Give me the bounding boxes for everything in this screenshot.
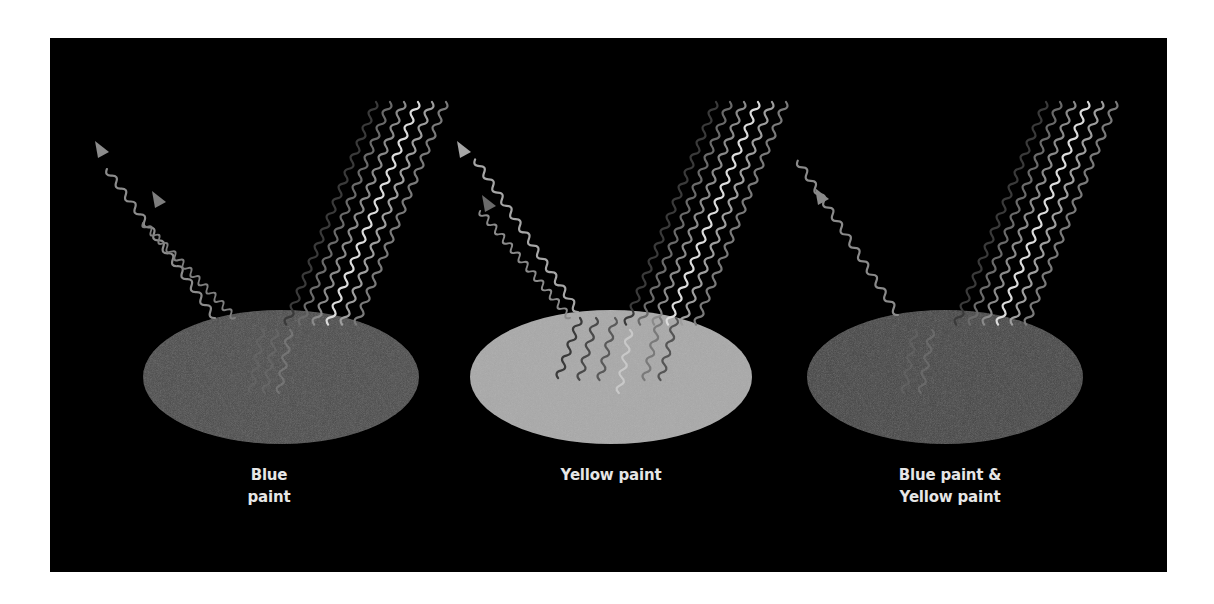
incident-light-waves <box>623 101 788 326</box>
caption-line: Blue <box>219 464 319 486</box>
reflected-arrow-icon <box>482 195 496 212</box>
caption-line: Blue paint & <box>880 464 1020 486</box>
caption-mixed-paint: Blue paint & Yellow paint <box>880 464 1020 508</box>
yellow-paint-surface <box>470 310 752 444</box>
reflected-light-waves <box>457 141 580 320</box>
reflected-light-waves <box>795 159 900 317</box>
caption-blue-paint: Blue paint <box>219 464 319 508</box>
reflected-arrow-icon <box>152 191 166 208</box>
panel-mixed-paint <box>795 101 1119 444</box>
caption-yellow-paint: Yellow paint <box>541 464 681 486</box>
reflected-light-waves <box>95 141 237 320</box>
panel-yellow-paint <box>457 101 789 444</box>
incident-light-waves <box>953 101 1118 326</box>
incident-light-waves <box>283 101 448 326</box>
mixed-paint-surface <box>807 310 1083 444</box>
reflected-arrow-icon <box>95 141 109 158</box>
reflected-arrow-icon <box>815 188 829 205</box>
light-reflection-diagram <box>0 0 1214 604</box>
caption-line: Yellow paint <box>880 486 1020 508</box>
caption-line: Yellow paint <box>541 464 681 486</box>
reflected-arrow-icon <box>457 141 471 158</box>
caption-line: paint <box>219 486 319 508</box>
panel-blue-paint <box>95 101 449 444</box>
